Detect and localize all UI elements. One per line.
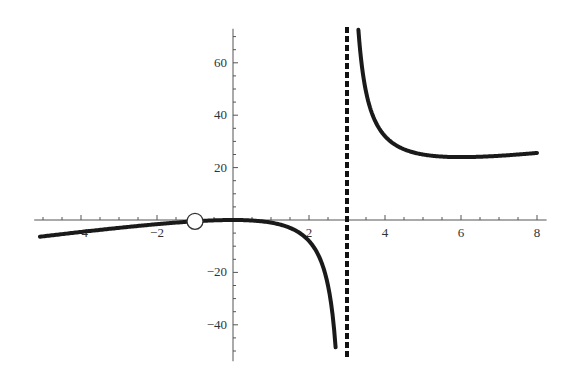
x-tick-label: 6	[458, 225, 465, 240]
x-tick-label: −2	[150, 225, 164, 240]
x-tick-label: 8	[534, 225, 541, 240]
function-curves	[40, 30, 537, 348]
y-tick-labels: −40−20204060	[207, 55, 227, 332]
y-tick-label: 20	[214, 160, 227, 175]
y-tick-label: −40	[207, 317, 227, 332]
removable-discontinuity-hole	[187, 213, 203, 229]
y-tick-label: 40	[214, 107, 227, 122]
y-ticks	[233, 37, 238, 351]
x-tick-label: 4	[382, 225, 389, 240]
x-ticks	[43, 215, 537, 220]
function-plot: −4−22468 −40−20204060	[0, 0, 577, 383]
axes: −4−22468 −40−20204060	[34, 29, 546, 362]
curve-right-branch	[358, 30, 537, 157]
y-tick-label: −20	[207, 264, 227, 279]
y-tick-label: 60	[214, 55, 227, 70]
